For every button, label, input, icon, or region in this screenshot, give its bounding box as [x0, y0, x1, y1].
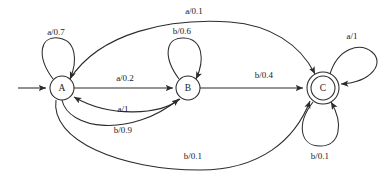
- edge-label-a-c-self: a/1: [347, 31, 358, 41]
- transition-A-to-C-b[interactable]: [56, 100, 310, 170]
- edge-label-b-b-to-c: b/0.4: [255, 70, 274, 80]
- edge-label-a-to-b: a/0.2: [116, 73, 134, 83]
- automaton-diagram: A B C a/0.7 a/0.2 a/0.1 b/0.9 b/0.1 b/0.…: [0, 0, 392, 176]
- state-C[interactable]: C: [307, 72, 339, 104]
- edge-label-b-c-self: b/0.1: [311, 151, 329, 161]
- edge-label-b-to-b-from-a: b/0.9: [114, 125, 133, 135]
- edge-label-b-self: b/0.6: [173, 26, 192, 36]
- transition-b-self-loop-C[interactable]: [302, 102, 338, 146]
- state-A-label: A: [59, 83, 66, 93]
- edge-label-a-to-c: a/0.1: [185, 6, 203, 16]
- state-C-label: C: [320, 83, 326, 93]
- state-B[interactable]: B: [176, 76, 200, 100]
- edge-label-a-self: a/0.7: [47, 27, 65, 37]
- transition-a-self-loop-C[interactable]: [330, 47, 377, 84]
- transition-b-self-loop-B[interactable]: [168, 38, 201, 79]
- automaton-canvas: A B C a/0.7 a/0.2 a/0.1 b/0.9 b/0.1 b/0.…: [0, 0, 392, 176]
- edge-label-a-b-to-a: a/1: [118, 104, 129, 114]
- edge-label-b-to-c-from-a: b/0.1: [184, 151, 202, 161]
- transition-A-to-C-a[interactable]: [70, 21, 315, 79]
- state-B-label: B: [185, 83, 191, 93]
- transition-a-self-loop-A[interactable]: [42, 38, 74, 79]
- state-A[interactable]: A: [50, 76, 74, 100]
